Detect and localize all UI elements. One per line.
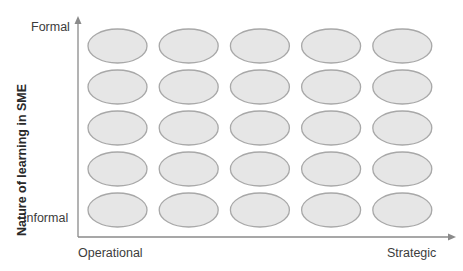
y-axis-top-label: Formal bbox=[31, 20, 70, 34]
ellipse-grid bbox=[88, 29, 432, 227]
grid-ellipse-r5-c5 bbox=[373, 193, 432, 227]
grid-ellipse-r3-c3 bbox=[230, 111, 289, 145]
x-axis-left-label: Operational bbox=[78, 246, 143, 260]
grid-ellipse-r5-c3 bbox=[230, 193, 289, 227]
grid-ellipse-r2-c4 bbox=[302, 70, 361, 104]
x-axis-arrowhead bbox=[448, 234, 456, 241]
grid-ellipse-r1-c5 bbox=[373, 29, 432, 63]
grid-ellipse-r2-c3 bbox=[230, 70, 289, 104]
grid-ellipse-r5-c4 bbox=[302, 193, 361, 227]
grid-ellipse-r1-c1 bbox=[88, 29, 147, 63]
grid-ellipse-r5-c2 bbox=[159, 193, 218, 227]
grid-ellipse-r4-c5 bbox=[373, 152, 432, 186]
grid-ellipse-r4-c1 bbox=[88, 152, 147, 186]
grid-ellipse-r4-c4 bbox=[302, 152, 361, 186]
grid-ellipse-r2-c2 bbox=[159, 70, 218, 104]
grid-ellipse-r5-c1 bbox=[88, 193, 147, 227]
y-axis-title: Nature of learning in SME bbox=[15, 84, 29, 236]
grid-ellipse-r4-c2 bbox=[159, 152, 218, 186]
grid-ellipse-r3-c4 bbox=[302, 111, 361, 145]
grid-ellipse-r1-c2 bbox=[159, 29, 218, 63]
grid-ellipse-r3-c5 bbox=[373, 111, 432, 145]
y-axis-bottom-label: Informal bbox=[23, 211, 68, 225]
grid-ellipse-r3-c1 bbox=[88, 111, 147, 145]
grid-ellipse-r1-c3 bbox=[230, 29, 289, 63]
x-axis-right-label: Strategic bbox=[387, 246, 436, 260]
diagram-canvas bbox=[0, 0, 463, 271]
grid-ellipse-r1-c4 bbox=[302, 29, 361, 63]
grid-ellipse-r3-c2 bbox=[159, 111, 218, 145]
y-axis-arrowhead bbox=[75, 16, 82, 24]
grid-ellipse-r4-c3 bbox=[230, 152, 289, 186]
grid-ellipse-r2-c1 bbox=[88, 70, 147, 104]
grid-ellipse-r2-c5 bbox=[373, 70, 432, 104]
